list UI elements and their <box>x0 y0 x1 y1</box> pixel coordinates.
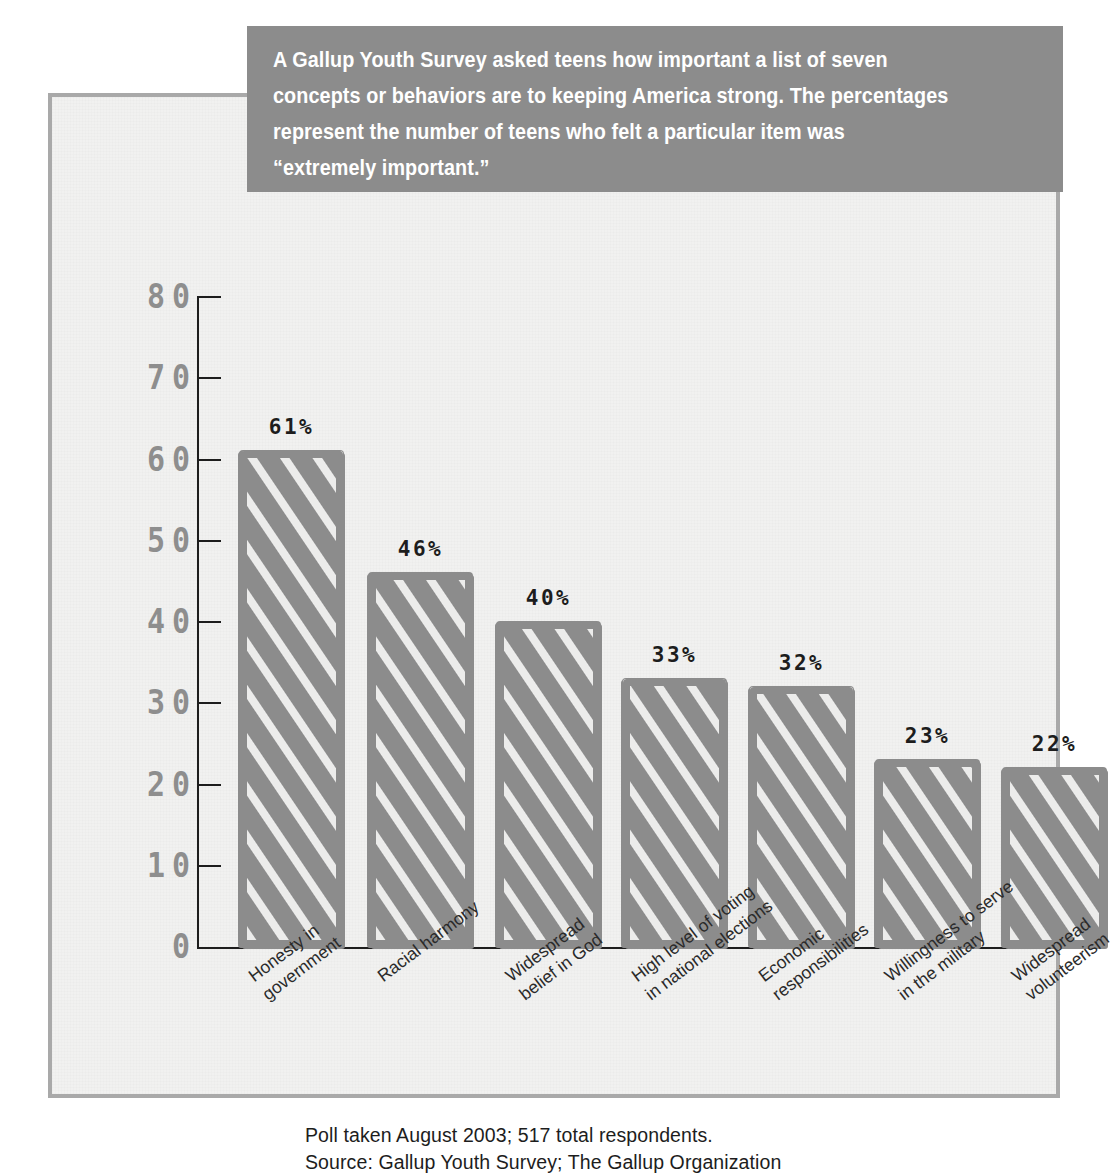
y-tick-label-70: 70 <box>107 361 197 395</box>
y-tick-label-10: 10 <box>107 849 197 883</box>
y-tick-label-20: 20 <box>107 768 197 802</box>
y-tick-label-0: 0 <box>107 930 197 964</box>
bar-outline <box>369 573 472 947</box>
y-tick-label-40: 40 <box>107 605 197 639</box>
y-tick-50 <box>197 540 221 542</box>
chart-panel: 01020304050607080 61%46%40%33%32%23%22% … <box>48 93 1060 1098</box>
y-tick-70 <box>197 377 221 379</box>
y-tick-label-30: 30 <box>107 686 197 720</box>
bar-value-label: 33% <box>623 643 726 667</box>
y-axis-tick-labels: 01020304050607080 <box>52 97 197 1094</box>
bar-outline <box>240 451 343 947</box>
headline-banner-text: A Gallup Youth Survey asked teens how im… <box>273 42 1039 186</box>
bar <box>240 451 343 947</box>
y-tick-label-50: 50 <box>107 524 197 558</box>
bar-value-label: 46% <box>369 537 472 561</box>
bar-value-label: 61% <box>240 415 343 439</box>
plot-area: 01020304050607080 61%46%40%33%32%23%22% … <box>52 97 1056 1094</box>
bar-value-label: 23% <box>876 724 979 748</box>
headline-banner: A Gallup Youth Survey asked teens how im… <box>247 26 1063 192</box>
bar-value-label: 40% <box>497 586 600 610</box>
y-tick-60 <box>197 459 221 461</box>
bar-value-label: 32% <box>750 651 853 675</box>
bar <box>497 622 600 947</box>
y-tick-80 <box>197 296 221 298</box>
bar-value-label: 22% <box>1003 732 1106 756</box>
y-tick-10 <box>197 865 221 867</box>
y-tick-30 <box>197 702 221 704</box>
y-tick-20 <box>197 784 221 786</box>
y-tick-label-60: 60 <box>107 443 197 477</box>
y-tick-label-80: 80 <box>107 280 197 314</box>
bar-outline <box>497 622 600 947</box>
bar <box>369 573 472 947</box>
y-axis-line <box>197 297 199 949</box>
y-tick-40 <box>197 621 221 623</box>
source-footnote: Poll taken August 2003; 517 total respon… <box>305 1122 781 1176</box>
